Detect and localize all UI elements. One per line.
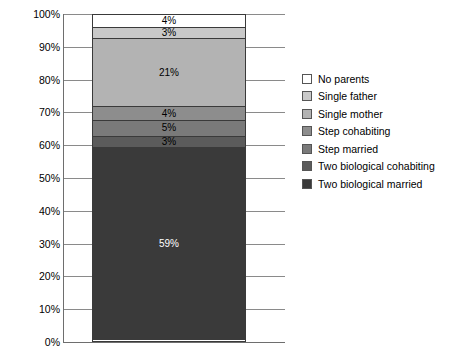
bar-segment-label: 3% (162, 28, 176, 38)
legend-item[interactable]: Two biological married (302, 175, 452, 192)
legend-swatch (302, 126, 312, 136)
y-tick-label: 100% (2, 9, 60, 20)
bar-segment-label: 21% (159, 68, 179, 78)
y-tick-label: 40% (2, 206, 60, 217)
bar-segment-label: 5% (162, 123, 176, 133)
y-tick-label: 30% (2, 239, 60, 250)
legend-label: Step cohabiting (318, 125, 390, 137)
legend-item[interactable]: Single mother (302, 105, 452, 122)
legend-label: Single mother (318, 108, 383, 120)
legend-item[interactable]: Step cohabiting (302, 123, 452, 140)
bar-segment[interactable]: 59% (93, 148, 245, 340)
bar-segment[interactable]: 3% (93, 28, 245, 39)
bar-segment-label: 4% (162, 16, 176, 26)
legend-label: Single father (318, 90, 377, 102)
plot-area: 4%3%21%4%5%3%59% (63, 14, 285, 342)
y-tick-label: 20% (2, 271, 60, 282)
bar-segment-label: 4% (162, 109, 176, 119)
y-tick-label: 50% (2, 173, 60, 184)
legend-swatch (302, 91, 312, 101)
bar-segment[interactable]: 21% (93, 39, 245, 107)
y-tick-label: 90% (2, 42, 60, 53)
legend-label: No parents (318, 73, 369, 85)
y-axis-tick-labels: 100%90%80%70%60%50%40%30%20%10%0% (0, 0, 60, 360)
bar-segment-label: 3% (162, 137, 176, 147)
bar-segment-label: 59% (159, 239, 179, 249)
legend-item[interactable]: Single father (302, 88, 452, 105)
legend-label: Two biological cohabiting (318, 160, 435, 172)
gridline (63, 342, 285, 343)
y-tick-label: 10% (2, 304, 60, 315)
legend-label: Two biological married (318, 178, 422, 190)
legend-item[interactable]: No parents (302, 70, 452, 87)
legend-swatch (302, 144, 312, 154)
legend-item[interactable]: Two biological cohabiting (302, 158, 452, 175)
stacked-bar: 4%3%21%4%5%3%59% (92, 14, 246, 342)
legend-swatch (302, 109, 312, 119)
legend-swatch (302, 179, 312, 189)
y-tick-label: 0% (2, 337, 60, 348)
legend-swatch (302, 161, 312, 171)
bar-segment[interactable]: 4% (93, 107, 245, 120)
legend-swatch (302, 74, 312, 84)
legend-label: Step married (318, 143, 378, 155)
legend-item[interactable]: Step married (302, 140, 452, 157)
y-tick-label: 80% (2, 75, 60, 86)
y-tick-label: 70% (2, 107, 60, 118)
chart-legend: No parentsSingle fatherSingle motherStep… (302, 70, 452, 193)
y-tick-label: 60% (2, 140, 60, 151)
stacked-bar-chart: 100%90%80%70%60%50%40%30%20%10%0% 4%3%21… (0, 0, 455, 360)
bar-segment[interactable]: 5% (93, 121, 245, 137)
bar-segment[interactable]: 3% (93, 137, 245, 148)
